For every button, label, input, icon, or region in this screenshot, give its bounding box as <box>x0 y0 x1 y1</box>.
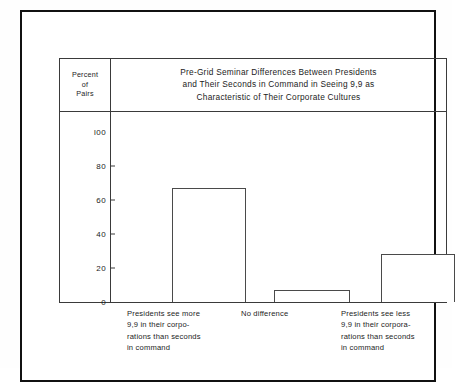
bar-1 <box>172 188 246 302</box>
figure-header-band: Percent of Pairs Pre-Grid Seminar Differ… <box>59 58 447 112</box>
chart-title-line-2: and Their Seconds in Command in Seeing 9… <box>183 78 375 90</box>
category-labels: Presidents see more9,9 in their corpo-ra… <box>59 308 459 360</box>
chart-title-line-1: Pre-Grid Seminar Differences Between Pre… <box>180 66 377 78</box>
y-axis-caption-line-3: Pairs <box>76 89 93 99</box>
category-label-1-line-4: in command <box>127 342 201 353</box>
bars-layer <box>111 112 447 303</box>
category-label-1: Presidents see more9,9 in their corpo-ra… <box>127 308 201 354</box>
y-axis-caption-line-1: Percent <box>72 70 98 80</box>
figure: Percent of Pairs Pre-Grid Seminar Differ… <box>59 58 447 303</box>
category-label-3-line-3: rations than seconds <box>341 331 415 342</box>
y-tick-label-100: l00 <box>94 128 106 137</box>
bar-2 <box>274 290 350 302</box>
y-tick-label-0: 0 <box>101 298 106 307</box>
category-label-2-line-1: No difference <box>241 308 288 319</box>
outer-page-border: Percent of Pairs Pre-Grid Seminar Differ… <box>20 10 436 382</box>
y-axis-caption: Percent of Pairs <box>60 59 111 111</box>
chart-title-line-3: Characteristic of Their Corporate Cultur… <box>197 91 361 103</box>
category-label-1-line-3: rations than seconds <box>127 331 201 342</box>
category-label-3-line-4: in command <box>341 342 415 353</box>
chart-title: Pre-Grid Seminar Differences Between Pre… <box>111 59 446 111</box>
category-label-2: No difference <box>241 308 288 319</box>
category-label-3: Presidents see less9,9 in their corpora-… <box>341 308 415 354</box>
category-label-3-line-1: Presidents see less <box>341 308 415 319</box>
category-label-1-line-2: 9,9 in their corpo- <box>127 319 201 330</box>
y-axis-caption-line-2: of <box>82 80 88 90</box>
y-tick-label-80: 80 <box>96 162 106 171</box>
bar-3 <box>381 254 455 302</box>
y-tick-label-60: 60 <box>96 196 106 205</box>
category-label-3-line-2: 9,9 in their corpora- <box>341 319 415 330</box>
y-tick-label-20: 20 <box>96 264 106 273</box>
y-tick-label-40: 40 <box>96 230 106 239</box>
category-label-1-line-1: Presidents see more <box>127 308 201 319</box>
